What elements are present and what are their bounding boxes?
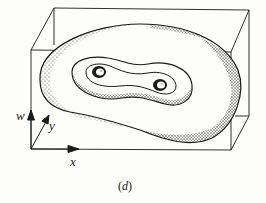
figure: w y x (d) (0, 0, 266, 203)
figure-caption: (d) (118, 179, 132, 194)
sphere-right (153, 79, 167, 91)
y-axis-arrowhead (42, 115, 49, 124)
sphere-left (92, 66, 106, 78)
x-axis-arrowhead (68, 146, 79, 153)
diagram-canvas (0, 0, 266, 203)
caption-letter: d (122, 179, 128, 193)
y-axis-label: y (49, 119, 55, 132)
w-axis-label: w (16, 109, 25, 122)
w-axis-arrowhead (28, 110, 35, 120)
x-axis-label: x (70, 155, 76, 168)
